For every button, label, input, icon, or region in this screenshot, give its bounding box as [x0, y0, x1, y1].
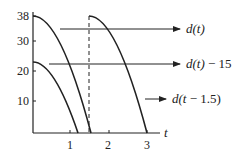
y-tick-20: 20: [17, 64, 29, 78]
label-d-t-minus-1-5: d(t − 1.5): [172, 91, 221, 106]
label-d-t-minus-15: d(t) − 15: [186, 56, 232, 71]
label-d-t-minus-1-5-fn: d(t: [172, 91, 187, 106]
x-ticks: 1 2 3 t: [67, 125, 168, 152]
curve-d-t-minus-1-5: [89, 16, 147, 133]
y-tick-38: 38: [17, 9, 29, 23]
chart: 38 30 20 10 1 2 3 t d(t) d(t) − 15 d(t −…: [0, 0, 244, 153]
label-d-t-minus-15-fn: d(t): [186, 56, 205, 71]
x-tick-2: 2: [105, 138, 111, 152]
label-d-t-minus-15-offset: − 15: [205, 56, 232, 71]
y-tick-30: 30: [17, 34, 29, 48]
label-d-t: d(t): [186, 21, 205, 36]
curve-d-t-minus-15: [33, 62, 78, 133]
curve-d-t: [33, 16, 91, 133]
label-d-t-minus-1-5-offset: − 1.5): [186, 91, 220, 106]
x-tick-3: 3: [144, 138, 150, 152]
x-tick-1: 1: [67, 138, 73, 152]
y-tick-10: 10: [17, 94, 29, 108]
x-axis-label: t: [164, 125, 168, 140]
